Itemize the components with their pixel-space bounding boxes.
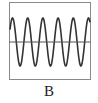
frame-box: [10, 3, 91, 80]
panel-label: B: [0, 82, 98, 100]
waveform-panel: B: [0, 0, 98, 103]
